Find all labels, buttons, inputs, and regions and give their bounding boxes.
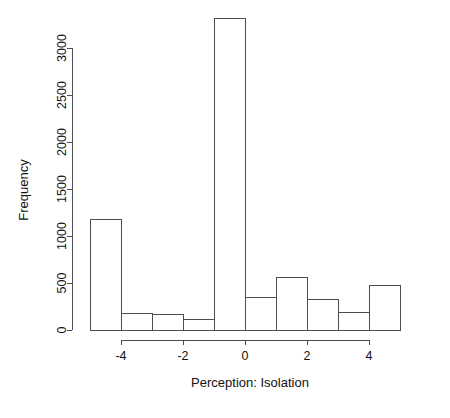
histogram-bar (369, 286, 400, 330)
histogram-bar (307, 299, 338, 330)
y-axis-tick-label: 500 (55, 273, 69, 294)
histogram-canvas: 050010001500200025003000 -4-2024 Frequen… (0, 0, 450, 418)
histogram-bar (152, 315, 183, 330)
x-axis-title: Perception: Isolation (191, 375, 309, 390)
histogram-bar (90, 220, 121, 330)
histogram-plot: 050010001500200025003000 -4-2024 Frequen… (0, 0, 450, 418)
x-axis-tick-label: 0 (242, 349, 249, 363)
histogram-bar (276, 277, 307, 330)
histogram-bar (245, 297, 276, 330)
x-axis-tick-label: 4 (366, 349, 373, 363)
y-axis-tick-label: 1500 (55, 175, 69, 203)
y-axis-tick-label: 2000 (55, 128, 69, 156)
histogram-bar (214, 19, 245, 330)
x-axis-tick-label: 2 (304, 349, 311, 363)
y-axis-tick-label: 1000 (55, 222, 69, 250)
histogram-bar (183, 319, 214, 330)
histogram-bar (338, 312, 369, 330)
y-axis-tick-label: 3000 (55, 34, 69, 62)
y-axis-tick-label: 2500 (55, 81, 69, 109)
y-axis-title: Frequency (16, 159, 31, 221)
histogram-bar (121, 313, 152, 330)
y-axis-tick-label: 0 (55, 326, 69, 333)
x-axis-tick-label: -4 (115, 349, 126, 363)
x-axis-tick-label: -2 (177, 349, 188, 363)
